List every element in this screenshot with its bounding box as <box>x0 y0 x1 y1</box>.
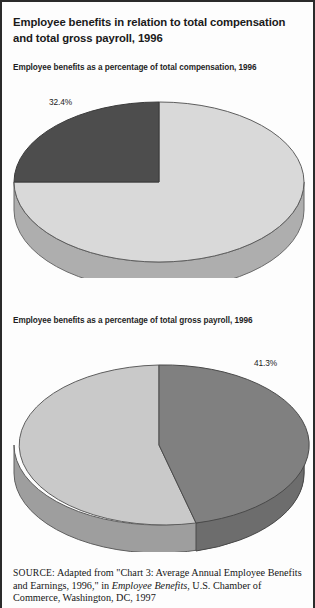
pie-1-top-face <box>14 102 304 262</box>
page-title: Employee benefits in relation to total c… <box>13 15 305 46</box>
pie-1-slice-benefits <box>14 102 159 182</box>
source-publication-title: Employee Benefits <box>112 580 188 591</box>
figure-container: Employee benefits in relation to total c… <box>0 0 315 608</box>
pie-chart-2-svg <box>2 342 315 552</box>
source-label: SOURCE: <box>13 567 55 578</box>
pie-chart-gross-payroll <box>2 342 315 552</box>
source-note: SOURCE: Adapted from "Chart 3: Average A… <box>13 567 305 605</box>
pie-1-value-label: 32.4% <box>49 97 72 107</box>
chart-2-subtitle: Employee benefits as a percentage of tot… <box>13 316 305 325</box>
chart-1-subtitle: Employee benefits as a percentage of tot… <box>13 63 305 72</box>
pie-2-top-face <box>19 365 309 525</box>
pie-chart-compensation <box>2 88 315 278</box>
pie-2-value-label: 41.3% <box>254 358 277 368</box>
pie-chart-1-svg <box>2 88 315 278</box>
